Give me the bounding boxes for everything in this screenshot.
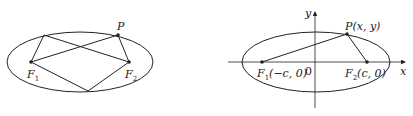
left-focus2-dot xyxy=(127,60,131,64)
right-point-p-label: P(x, y) xyxy=(344,20,380,33)
right-focus1-label: F1(−c, 0) xyxy=(256,67,307,82)
left-point-p-dot xyxy=(116,33,120,37)
left-focus1-label: F1 xyxy=(26,68,39,83)
right-focus2-dot xyxy=(365,60,369,64)
left-focal-segments xyxy=(31,35,129,91)
left-point-p-label: P xyxy=(116,20,125,33)
right-focus1-dot xyxy=(260,60,264,64)
segment-p-f2 xyxy=(347,34,367,62)
left-focus1-dot xyxy=(29,60,33,64)
left-focus2-label: F2 xyxy=(124,68,137,83)
right-focus2-label: F2(c, 0) xyxy=(344,67,386,82)
y-axis-label: y xyxy=(304,7,312,20)
x-axis-label: x xyxy=(400,65,407,78)
segment-f1-p xyxy=(262,34,347,62)
left-ellipse-figure: P F1 F2 xyxy=(7,20,153,92)
left-ellipse xyxy=(7,32,153,92)
right-ellipse-figure: y x 0 P(x, y) F1(−c, 0) F2(c, 0) xyxy=(228,7,407,108)
